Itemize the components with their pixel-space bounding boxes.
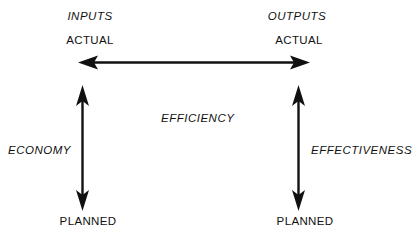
connector-label-economy: ECONOMY xyxy=(8,144,71,157)
node-label-outputs-actual: ACTUAL xyxy=(275,34,322,47)
diagram-canvas: INPUTS ACTUAL PLANNED OUTPUTS ACTUAL PLA… xyxy=(0,0,415,239)
connector-label-effectiveness: EFFECTIVENESS xyxy=(311,144,412,157)
node-label-outputs-planned: PLANNED xyxy=(277,215,334,228)
node-label-outputs: OUTPUTS xyxy=(268,10,326,23)
efficiency-arrow xyxy=(78,56,310,70)
node-label-inputs: INPUTS xyxy=(67,10,112,23)
connector-label-efficiency: EFFICIENCY xyxy=(161,112,234,125)
effectiveness-arrow xyxy=(292,85,305,211)
node-label-inputs-actual: ACTUAL xyxy=(66,34,113,47)
economy-arrow xyxy=(76,85,89,211)
node-label-inputs-planned: PLANNED xyxy=(60,215,117,228)
